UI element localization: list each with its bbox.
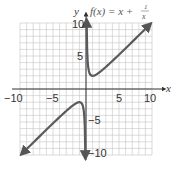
- y-tick-label: −10: [88, 147, 107, 159]
- y-tick-label: 5: [77, 50, 83, 62]
- function-title: f(x) = x + 1 x: [90, 3, 149, 21]
- y-tick-label: 10: [72, 18, 84, 30]
- y-tick-label: −5: [88, 114, 101, 126]
- x-tick-label: 5: [116, 92, 122, 104]
- curve-negative-branch: [23, 102, 85, 155]
- x-tick-label: 10: [144, 92, 156, 104]
- y-axis-label: y: [73, 5, 79, 17]
- title-fraction-denominator: x: [141, 12, 146, 21]
- title-lhs: f(x) = x +: [90, 5, 133, 18]
- curve-positive-branch: [87, 22, 149, 75]
- title-fraction-numerator: 1: [144, 3, 148, 11]
- x-axis-label: x: [165, 82, 171, 94]
- x-tick-label: −10: [4, 92, 23, 104]
- x-tick-label: −5: [46, 92, 59, 104]
- function-graph: −10 −5 5 10 10 5 −5 −10 x y f(x) = x + 1…: [0, 0, 176, 169]
